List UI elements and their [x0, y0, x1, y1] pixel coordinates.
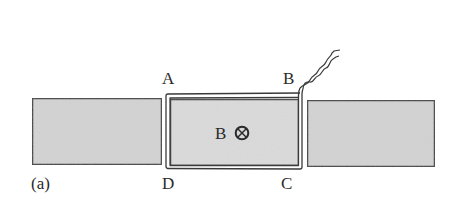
twisted-wire-2	[303, 56, 339, 89]
corner-label-d: D	[162, 175, 174, 192]
field-label: B	[215, 125, 226, 142]
loop-lead-wire-2	[302, 89, 303, 100]
corner-label-c: C	[281, 175, 292, 192]
diagram-svg	[0, 0, 460, 206]
diagram-canvas: A B D C B (a)	[0, 0, 460, 206]
panel-label: (a)	[31, 175, 50, 192]
corner-label-a: A	[162, 70, 174, 87]
loop-lead-wire	[299, 88, 301, 100]
corner-label-b: B	[283, 70, 294, 87]
right-slab	[308, 101, 435, 167]
twisted-leads	[300, 50, 340, 89]
center-region	[171, 100, 299, 166]
left-slab	[33, 99, 162, 165]
